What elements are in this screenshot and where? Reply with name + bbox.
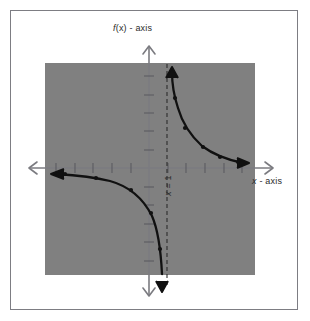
data-point [218, 155, 222, 159]
asymptote-label-rest: = 1 [163, 175, 173, 188]
x-axis-label-suffix: - axis [259, 176, 282, 186]
figure-page: f(x) - axis x - axis x = 1 [0, 0, 310, 321]
x-axis-label-var: x [252, 176, 257, 186]
data-point [94, 176, 98, 180]
data-point [183, 126, 187, 130]
asymptote-label: x = 1 [163, 175, 173, 196]
x-axis-label: x - axis [252, 176, 282, 186]
y-axis-label-arg: (x) [116, 23, 127, 33]
graph-canvas [0, 0, 310, 321]
y-axis-label-suffix: - axis [130, 23, 153, 33]
data-point [158, 247, 162, 251]
data-point [149, 211, 153, 215]
data-point [236, 160, 240, 164]
asymptote-label-var: x [163, 191, 173, 196]
data-point [173, 96, 177, 100]
y-axis-label: f(x) - axis [113, 23, 152, 33]
data-point [129, 188, 133, 192]
data-point [63, 172, 67, 176]
data-point [201, 145, 205, 149]
left-branch-arrow-down [156, 281, 168, 292]
